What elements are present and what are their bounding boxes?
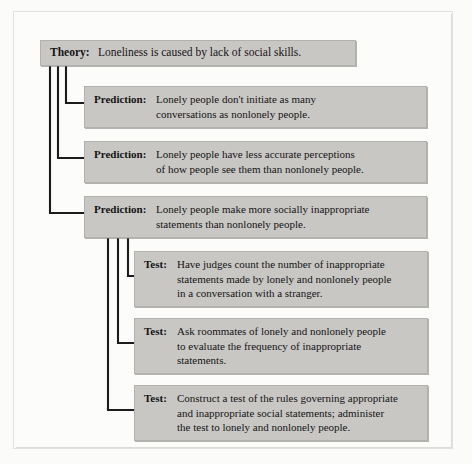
test-box-3: Test: Construct a test of the rules gove… bbox=[134, 385, 428, 441]
theory-label: Theory: bbox=[50, 45, 98, 60]
prediction-text: Lonely people have less accurate percept… bbox=[156, 147, 418, 176]
prediction-text-line: of how people see them than nonlonely pe… bbox=[156, 163, 364, 175]
theory-box: Theory: Loneliness is caused by lack of … bbox=[40, 40, 356, 66]
test-label: Test: bbox=[144, 391, 177, 406]
prediction-text-line: Lonely people have less accurate percept… bbox=[156, 148, 355, 160]
test-text-line: and inappropriate social statements; adm… bbox=[177, 407, 384, 419]
test-text-line: statements. bbox=[177, 354, 226, 366]
prediction-text-line: conversations as nonlonely people. bbox=[156, 108, 310, 120]
connector-theory-to-prediction-2 bbox=[58, 66, 84, 158]
prediction-box-2: Prediction: Lonely people have less accu… bbox=[84, 141, 427, 183]
test-box-2: Test: Ask roommates of lonely and nonlon… bbox=[134, 318, 428, 374]
prediction-label: Prediction: bbox=[94, 92, 156, 107]
prediction-box-3: Prediction: Lonely people make more soci… bbox=[84, 196, 427, 238]
prediction-text-line: Lonely people make more socially inappro… bbox=[156, 203, 370, 215]
test-text: Construct a test of the rules governing … bbox=[177, 391, 419, 435]
test-text-line: Construct a test of the rules governing … bbox=[177, 392, 398, 404]
connector-prediction-to-test-3 bbox=[108, 238, 134, 410]
test-text: Ask roommates of lonely and nonlonely pe… bbox=[177, 324, 419, 368]
test-text-line: statements made by lonely and nonlonely … bbox=[177, 273, 391, 285]
prediction-text-line: statements than nonlonely people. bbox=[156, 218, 306, 230]
test-label: Test: bbox=[144, 257, 177, 272]
prediction-label: Prediction: bbox=[94, 202, 156, 217]
diagram-page: Theory: Loneliness is caused by lack of … bbox=[0, 0, 472, 464]
test-label: Test: bbox=[144, 324, 177, 339]
test-text-line: to evaluate the frequency of inappropria… bbox=[177, 340, 361, 352]
connector-theory-to-prediction-1 bbox=[66, 66, 84, 103]
prediction-box-1: Prediction: Lonely people don't initiate… bbox=[84, 86, 427, 128]
prediction-text: Lonely people don't initiate as many con… bbox=[156, 92, 418, 121]
test-text: Have judges count the number of inapprop… bbox=[177, 257, 419, 301]
test-text-line: Have judges count the number of inapprop… bbox=[177, 258, 385, 270]
test-text-line: in a conversation with a stranger. bbox=[177, 287, 322, 299]
test-text-line: Ask roommates of lonely and nonlonely pe… bbox=[177, 325, 386, 337]
theory-text: Loneliness is caused by lack of social s… bbox=[98, 45, 347, 60]
connector-prediction-to-test-2 bbox=[118, 238, 134, 343]
test-text-line: the test to lonely and nonlonely people. bbox=[177, 421, 350, 433]
prediction-text-line: Lonely people don't initiate as many bbox=[156, 93, 316, 105]
prediction-text: Lonely people make more socially inappro… bbox=[156, 202, 418, 231]
test-box-1: Test: Have judges count the number of in… bbox=[134, 251, 428, 307]
prediction-label: Prediction: bbox=[94, 147, 156, 162]
